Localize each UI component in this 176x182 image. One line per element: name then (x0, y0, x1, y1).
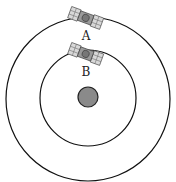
planet (78, 87, 98, 107)
orbit-diagram: A B (0, 0, 176, 182)
satellite-b-label: B (82, 65, 91, 79)
satellite-a-label: A (81, 29, 91, 43)
satellite-b-icon (68, 42, 104, 65)
satellite-a-icon (68, 6, 104, 29)
